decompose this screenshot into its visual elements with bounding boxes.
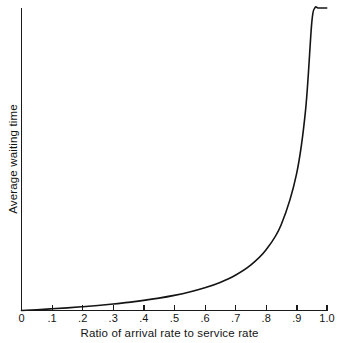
x-axis-title: Ratio of arrival rate to service rate — [0, 327, 339, 339]
x-tick-label-4: .4 — [133, 312, 154, 324]
x-tick-label-9: .9 — [286, 312, 307, 324]
waiting-time-curve — [22, 7, 327, 311]
x-tick-label-2: .2 — [72, 312, 93, 324]
x-tick-label-3: .3 — [103, 312, 124, 324]
x-tick-label-7: .7 — [225, 312, 246, 324]
x-tick-label-6: .6 — [195, 312, 216, 324]
plot-canvas — [0, 0, 339, 343]
y-axis-title: Average waiting time — [7, 99, 19, 219]
x-tick-label-10: 1.0 — [316, 312, 338, 324]
x-tick-label-1: .1 — [42, 312, 63, 324]
axes-group — [21, 8, 327, 311]
x-tick-label-8: .8 — [256, 312, 277, 324]
queueing-waiting-time-chart: 0 .1 .2 .3 .4 .5 .6 .7 .8 .9 1.0 Ratio o… — [0, 0, 339, 343]
x-tick-label-5: .5 — [164, 312, 185, 324]
x-tick-label-0: 0 — [11, 312, 32, 324]
